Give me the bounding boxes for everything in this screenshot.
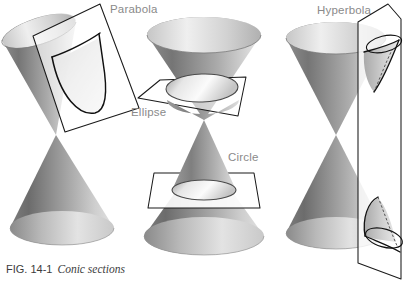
conic-sections-illustration <box>0 0 406 284</box>
figure-caption: FIG. 14-1Conic sections <box>6 263 125 275</box>
parabola-lower-nappe <box>10 135 114 245</box>
label-circle: Circle <box>228 151 259 163</box>
label-hyperbola: Hyperbola <box>317 4 371 16</box>
hyperbola-panel <box>286 4 405 279</box>
figure-caption-number: FIG. 14-1 <box>6 263 52 275</box>
conic-sections-figure: Parabola Ellipse Circle Hyperbola FIG. 1… <box>0 0 406 284</box>
figure-caption-text: Conic sections <box>57 263 124 275</box>
ellipse-circle-panel <box>138 17 264 255</box>
label-ellipse: Ellipse <box>131 106 166 118</box>
parabola-panel <box>0 4 139 245</box>
mid-lower-nappe <box>172 120 236 200</box>
label-parabola: Parabola <box>110 3 158 15</box>
